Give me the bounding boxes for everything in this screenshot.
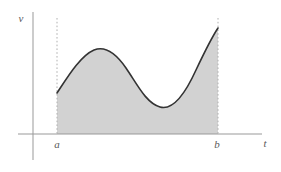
tick-label-a: a: [54, 138, 60, 150]
velocity-time-figure: v t a b: [0, 0, 281, 172]
tick-label-b: b: [214, 138, 220, 150]
figure-canvas: v t a b: [0, 0, 281, 172]
vertical-axis-label: v: [19, 12, 24, 24]
horizontal-axis-label: t: [263, 137, 267, 149]
shaded-area-under-curve: [57, 28, 218, 134]
